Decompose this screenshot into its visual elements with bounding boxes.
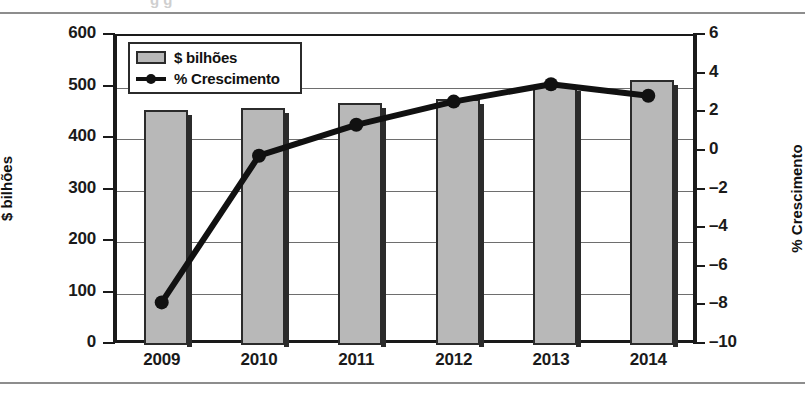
left-axis-tick-label: 200 — [36, 229, 96, 249]
bar — [241, 108, 285, 345]
right-axis-tick — [693, 342, 705, 344]
right-axis-tick — [693, 33, 705, 35]
left-axis-tick-label: 0 — [36, 332, 96, 352]
right-axis-tick — [693, 72, 705, 74]
left-axis-tick — [103, 291, 115, 293]
legend-item-crescimento: % Crescimento — [136, 70, 294, 89]
left-axis-tick-label: 400 — [36, 126, 96, 146]
right-axis-tick-label: –4 — [709, 216, 769, 236]
left-axis-tick — [103, 136, 115, 138]
bar — [533, 86, 577, 345]
right-axis-tick — [693, 265, 705, 267]
right-axis-tick-label: –8 — [709, 293, 769, 313]
legend-item-label: $ bilhões — [174, 49, 237, 66]
left-axis-title: $ bilhões — [0, 156, 15, 221]
left-axis-tick-label: 100 — [36, 281, 96, 301]
right-axis-tick-label: 2 — [709, 100, 769, 120]
x-axis-tick-label: 2011 — [308, 350, 404, 370]
right-axis-tick — [693, 188, 705, 190]
x-axis-tick-label: 2012 — [406, 350, 502, 370]
clipped-heading-remnant: g g — [150, 0, 570, 11]
legend-item-label: % Crescimento — [174, 70, 280, 87]
line-dot-icon — [136, 72, 166, 85]
x-axis-tick-label: 2009 — [114, 350, 210, 370]
right-axis-tick-label: –6 — [709, 255, 769, 275]
gridline — [117, 242, 693, 243]
gridline — [117, 139, 693, 140]
left-axis-tick — [103, 85, 115, 87]
left-axis-tick — [103, 239, 115, 241]
right-axis-tick-label: –10 — [709, 332, 769, 352]
bar-swatch-icon — [136, 51, 166, 64]
left-axis-tick — [103, 342, 115, 344]
gridline — [117, 191, 693, 192]
left-axis-tick — [103, 33, 115, 35]
right-axis-tick-label: 0 — [709, 139, 769, 159]
x-axis-tick-label: 2014 — [600, 350, 696, 370]
top-divider-rule — [0, 12, 805, 14]
x-axis-tick-label: 2013 — [503, 350, 599, 370]
right-axis-tick — [693, 149, 705, 151]
right-axis-tick-label: –2 — [709, 178, 769, 198]
left-axis-tick-label: 300 — [36, 178, 96, 198]
right-axis-tick — [693, 226, 705, 228]
chart-legend: $ bilhões % Crescimento — [128, 42, 302, 94]
right-axis-tick — [693, 303, 705, 305]
legend-item-bilhoes: $ bilhões — [136, 48, 294, 67]
bar — [338, 103, 382, 345]
right-axis-title: % Crescimento — [788, 144, 805, 252]
left-axis-tick-label: 500 — [36, 75, 96, 95]
x-axis-tick-label: 2010 — [211, 350, 307, 370]
chart-page: g g 6005004003002001000 6420–2–4–6–8–10 … — [0, 0, 805, 400]
left-axis-tick — [103, 188, 115, 190]
right-axis-tick-label: 4 — [709, 62, 769, 82]
bar — [436, 99, 480, 345]
right-axis-tick-label: 6 — [709, 23, 769, 43]
left-axis-tick-label: 600 — [36, 23, 96, 43]
bar — [144, 110, 188, 345]
gridline — [117, 294, 693, 295]
bottom-divider-rule — [0, 382, 805, 384]
bar — [630, 80, 674, 345]
right-axis-tick — [693, 110, 705, 112]
